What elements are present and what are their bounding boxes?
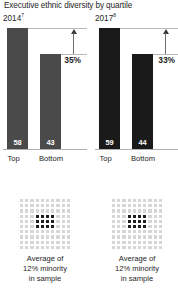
- dot-base: [117, 204, 120, 207]
- dot-base: [148, 199, 151, 202]
- dot-base: [25, 246, 28, 249]
- dot-base: [56, 230, 59, 233]
- dot-base: [30, 220, 33, 223]
- dot-base: [56, 199, 59, 202]
- dot-base: [30, 199, 33, 202]
- dot-base: [62, 235, 65, 238]
- dot-highlighted: [138, 220, 141, 223]
- dot-base: [117, 246, 120, 249]
- dot-base: [128, 199, 131, 202]
- panel-year-label-2017: 20178: [95, 14, 116, 24]
- dot-base: [25, 225, 28, 228]
- gap-arrow-line: [73, 33, 74, 54]
- dot-highlighted: [51, 220, 54, 223]
- dot-base: [138, 199, 141, 202]
- panel-year-text: 2014: [3, 14, 21, 23]
- dot-base: [36, 246, 39, 249]
- dot-base: [67, 215, 70, 218]
- dot-base: [138, 241, 141, 244]
- dot-base: [128, 235, 131, 238]
- dot-base: [159, 204, 162, 207]
- dot-base: [154, 241, 157, 244]
- dot-cell: [66, 245, 71, 250]
- dot-base: [20, 215, 23, 218]
- dot-base: [30, 209, 33, 212]
- dot-base: [148, 246, 151, 249]
- bar-bottom-value-2014: 43: [40, 139, 61, 147]
- dot-base: [148, 204, 151, 207]
- dot-base: [41, 241, 44, 244]
- dot-base: [148, 230, 151, 233]
- dot-base: [112, 225, 115, 228]
- dot-base: [133, 199, 136, 202]
- dot-base: [62, 209, 65, 212]
- dot-base: [154, 215, 157, 218]
- dot-base: [112, 241, 115, 244]
- dot-base: [25, 241, 28, 244]
- dot-base: [122, 225, 125, 228]
- dot-base: [20, 241, 23, 244]
- baseline-2014: [3, 149, 87, 150]
- dot-base: [159, 225, 162, 228]
- dot-base: [159, 209, 162, 212]
- dot-base: [117, 220, 120, 223]
- dot-base: [138, 209, 141, 212]
- dot-grid-caption-2014: Average of 12% minority in sample: [3, 254, 87, 284]
- dot-base: [25, 220, 28, 223]
- dot-highlighted: [133, 215, 136, 218]
- dot-base: [62, 220, 65, 223]
- plot-area-2017: 59 44 33%: [95, 28, 178, 150]
- panel-2017: 20178 59 44 33% Top Bottom: [95, 14, 178, 180]
- dot-highlighted: [128, 225, 131, 228]
- dot-base: [67, 199, 70, 202]
- dot-base: [51, 241, 54, 244]
- dot-base: [138, 230, 141, 233]
- dot-base: [20, 199, 23, 202]
- dot-base: [154, 209, 157, 212]
- dot-base: [62, 204, 65, 207]
- dot-base: [154, 199, 157, 202]
- dot-base: [154, 235, 157, 238]
- dot-base: [36, 199, 39, 202]
- dot-base: [148, 209, 151, 212]
- dot-highlighted: [138, 225, 141, 228]
- dot-base: [25, 230, 28, 233]
- dot-base: [138, 204, 141, 207]
- dot-base: [46, 199, 49, 202]
- dot-highlighted: [51, 225, 54, 228]
- dot-base: [30, 230, 33, 233]
- dot-base: [20, 225, 23, 228]
- gap-arrow-2014: [73, 29, 74, 54]
- dot-base: [133, 209, 136, 212]
- bar-top-2014: 58: [7, 28, 28, 149]
- dot-base: [143, 199, 146, 202]
- caption-line-3: in sample: [95, 274, 178, 284]
- dot-base: [51, 230, 54, 233]
- dot-base: [154, 204, 157, 207]
- dot-base: [122, 241, 125, 244]
- dot-base: [138, 235, 141, 238]
- dot-base: [112, 230, 115, 233]
- dot-highlighted: [128, 215, 131, 218]
- dot-base: [51, 204, 54, 207]
- dot-base: [112, 204, 115, 207]
- dot-base: [128, 241, 131, 244]
- gap-label-2017: 33%: [158, 56, 175, 65]
- dot-highlighted: [36, 215, 39, 218]
- dot-base: [20, 230, 23, 233]
- dot-base: [159, 235, 162, 238]
- caption-line-2: 12% minority: [3, 264, 87, 274]
- dot-grid-caption-2017: Average of 12% minority in sample: [95, 254, 178, 284]
- dot-highlighted: [46, 220, 49, 223]
- dot-base: [56, 209, 59, 212]
- dot-base: [112, 246, 115, 249]
- dot-base: [56, 241, 59, 244]
- dot-base: [62, 246, 65, 249]
- dot-highlighted: [46, 215, 49, 218]
- dot-base: [25, 235, 28, 238]
- dot-base: [25, 199, 28, 202]
- dot-base: [56, 215, 59, 218]
- dot-base: [46, 230, 49, 233]
- dot-base: [112, 220, 115, 223]
- dot-highlighted: [46, 225, 49, 228]
